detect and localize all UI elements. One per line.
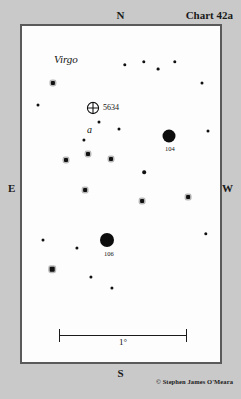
star-marker: [89, 275, 92, 278]
star-marker: [207, 130, 210, 133]
star-chart-page: N Chart 42a E W S © Stephen James O'Mear…: [0, 0, 241, 399]
scale-bar-line: [59, 335, 187, 336]
star-marker: [157, 68, 160, 71]
star-marker: [50, 267, 55, 272]
deep-sky-object-label: 106: [104, 250, 114, 257]
star-marker: [110, 286, 113, 289]
scale-bar: 1°: [59, 329, 187, 351]
star-marker: [109, 157, 113, 161]
star-marker: [142, 60, 145, 63]
star-marker: [173, 60, 176, 63]
star-marker: [37, 104, 40, 107]
deep-sky-object-marker: [100, 233, 114, 247]
constellation-label-virgo: Virgo: [54, 53, 78, 65]
star-marker: [82, 138, 85, 141]
deep-sky-object-label: 5634: [103, 103, 119, 112]
star-marker: [42, 239, 45, 242]
globular-cluster-icon: [87, 101, 100, 114]
star-marker: [140, 199, 144, 203]
scale-bar-label: 1°: [59, 337, 187, 347]
star-marker: [123, 63, 126, 66]
cardinal-label-east: E: [8, 183, 15, 194]
star-letter-label: a: [87, 124, 92, 135]
star-marker: [98, 121, 101, 124]
star-marker: [201, 82, 204, 85]
copyright-notice: © Stephen James O'Meara: [0, 378, 241, 385]
star-field-panel: Virgo 5634104106 a 1°: [20, 24, 222, 364]
star-marker: [186, 195, 190, 199]
star-marker: [118, 128, 121, 131]
star-marker: [51, 81, 55, 85]
star-marker: [75, 246, 78, 249]
star-marker: [64, 158, 68, 162]
star-marker: [83, 188, 87, 192]
star-marker: [142, 170, 146, 174]
chart-title: Chart 42a: [186, 10, 233, 21]
deep-sky-object-marker: [163, 130, 176, 143]
star-marker: [86, 152, 90, 156]
star-marker: [204, 232, 207, 235]
deep-sky-object-label: 104: [165, 145, 175, 152]
cardinal-label-west: W: [222, 183, 233, 194]
